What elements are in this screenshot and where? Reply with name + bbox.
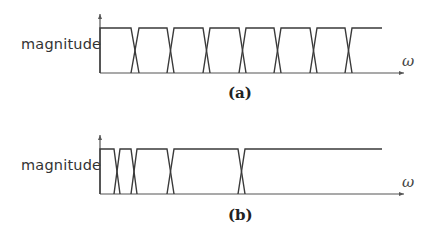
x-axis-arrow-icon-b	[399, 192, 404, 196]
filter-band-a-1	[100, 28, 139, 73]
filter-band-b-5	[238, 149, 382, 194]
filter-bank-diagram	[0, 0, 431, 232]
y-axis-arrow-icon-a	[98, 14, 102, 19]
filter-band-b-4	[167, 149, 245, 194]
y-axis-arrow-icon-b	[98, 135, 102, 140]
x-axis-arrow-icon-a	[399, 71, 404, 75]
